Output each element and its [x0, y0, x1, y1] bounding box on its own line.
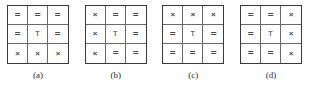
symbol-equals: =	[248, 30, 254, 39]
symbol-equals: =	[268, 49, 274, 58]
grid-cell: ×	[183, 6, 203, 25]
panel-d: = = × = T × = = × (d)	[240, 5, 302, 80]
grid-cell: =	[48, 6, 68, 25]
symbol-tee: T	[113, 30, 118, 38]
grid-cell: ×	[28, 44, 48, 63]
symbol-tee: T	[190, 30, 195, 38]
symbol-times: ×	[190, 11, 195, 19]
symbol-times: ×	[93, 30, 98, 38]
symbol-equals: =	[133, 11, 139, 20]
symbol-times: ×	[211, 11, 216, 19]
grid-cell: ×	[8, 44, 28, 63]
grid-cell: =	[203, 25, 223, 44]
symbol-times: ×	[93, 11, 98, 19]
grid-cell: =	[8, 25, 28, 44]
grid-cell: =	[106, 44, 126, 63]
grid-cell: =	[261, 44, 281, 63]
symbol-equals: =	[55, 30, 61, 39]
symbol-equals: =	[210, 49, 216, 58]
grid-cell: ×	[281, 6, 301, 25]
grid-cell: ×	[48, 44, 68, 63]
symbol-equals: =	[55, 11, 61, 20]
symbol-times: ×	[56, 50, 61, 58]
symbol-times: ×	[289, 11, 294, 19]
symbol-equals: =	[133, 30, 139, 39]
symbol-times: ×	[289, 30, 294, 38]
grid-cell-center: T	[28, 25, 48, 44]
grid-c: × × × = T = = = =	[162, 5, 224, 64]
panel-caption: (a)	[33, 70, 43, 80]
grid-cell: =	[183, 44, 203, 63]
grid-cell-center: T	[106, 25, 126, 44]
symbol-times: ×	[170, 11, 175, 19]
grid-cell: ×	[86, 44, 106, 63]
grid-cell: ×	[86, 6, 106, 25]
panel-caption: (b)	[110, 70, 121, 80]
grid-b: × = = × T = × = =	[85, 5, 147, 64]
grid-a: = = = = T = × × ×	[7, 5, 69, 64]
grid-cell-center: T	[261, 25, 281, 44]
symbol-equals: =	[112, 49, 118, 58]
symbol-equals: =	[112, 11, 118, 20]
symbol-equals: =	[35, 11, 41, 20]
grid-cell: =	[106, 6, 126, 25]
grid-cell: =	[163, 25, 183, 44]
grid-d: = = × = T × = = ×	[240, 5, 302, 64]
symbol-times: ×	[289, 50, 294, 58]
panel-b: × = = × T = × = = (b)	[85, 5, 147, 80]
grid-cell: =	[48, 25, 68, 44]
grid-cell: =	[8, 6, 28, 25]
symbol-times: ×	[93, 50, 98, 58]
symbol-equals: =	[190, 49, 196, 58]
symbol-tee: T	[35, 30, 40, 38]
grid-cell: ×	[203, 6, 223, 25]
grid-cell: =	[261, 6, 281, 25]
symbol-times: ×	[15, 50, 20, 58]
grid-cell: =	[241, 44, 261, 63]
panel-c: × × × = T = = = = (c)	[162, 5, 224, 80]
grid-cell: =	[126, 6, 146, 25]
grid-cell: =	[28, 6, 48, 25]
symbol-equals: =	[170, 49, 176, 58]
panel-a: = = = = T = × × × (a)	[7, 5, 69, 80]
grid-cell: ×	[281, 44, 301, 63]
grid-cell: =	[163, 44, 183, 63]
symbol-times: ×	[35, 50, 40, 58]
symbol-equals: =	[268, 11, 274, 20]
grid-cell: ×	[86, 25, 106, 44]
grid-cell: =	[241, 25, 261, 44]
grid-cell: =	[126, 25, 146, 44]
symbol-equals: =	[133, 49, 139, 58]
grid-cell: ×	[163, 6, 183, 25]
grid-cell-center: T	[183, 25, 203, 44]
symbol-equals: =	[15, 30, 21, 39]
grid-cell: =	[126, 44, 146, 63]
panel-caption: (c)	[188, 70, 198, 80]
symbol-equals: =	[15, 11, 21, 20]
grid-cell: =	[203, 44, 223, 63]
grid-cell: =	[241, 6, 261, 25]
symbol-tee: T	[268, 30, 273, 38]
panel-caption: (d)	[266, 70, 277, 80]
symbol-equals: =	[248, 11, 254, 20]
symbol-equals: =	[248, 49, 254, 58]
symbol-equals: =	[210, 30, 216, 39]
symbol-equals: =	[170, 30, 176, 39]
grid-cell: ×	[281, 25, 301, 44]
figure-container: = = = = T = × × × (a) × = = × T = × = = …	[0, 0, 309, 89]
